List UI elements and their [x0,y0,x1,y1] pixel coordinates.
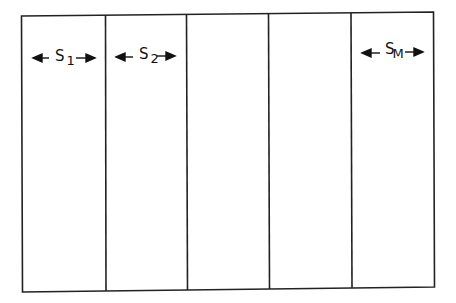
divider-1 [106,15,107,291]
left-arrow-icon [33,54,42,62]
right-arrow-icon [166,52,175,60]
strip-m-width-label: SM [385,40,404,58]
right-arrow-icon [86,54,95,62]
label-base: S [139,45,149,63]
right-arrow-icon [414,48,423,56]
strip-2-width-label: S2 [139,45,159,63]
outer-rectangle [22,12,435,292]
strip-1-width-label: S1 [55,47,75,65]
left-arrow-icon [116,53,125,61]
left-arrow-icon [362,49,371,57]
label-subscript: 2 [151,51,159,66]
label-subscript: 1 [67,53,75,68]
divider-3 [269,13,270,289]
label-subscript: M [393,46,404,61]
divider-4 [351,13,352,288]
label-base: S [55,47,65,65]
divider-2 [187,14,188,290]
